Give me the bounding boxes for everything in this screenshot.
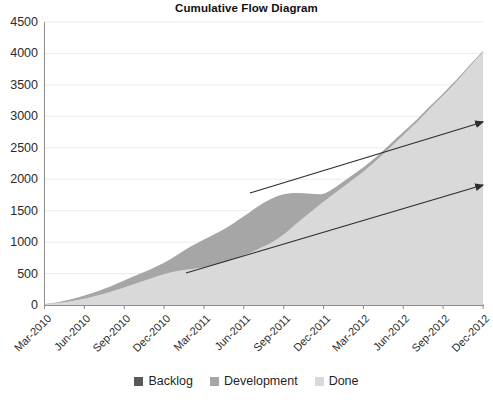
y-tick-label-1000: 1000 [0,236,38,248]
y-tick-label-4000: 4000 [0,47,38,59]
y-tick-label-3000: 3000 [0,110,38,122]
y-tick-label-4500: 4500 [0,16,38,28]
legend-label-done: Done [329,374,359,388]
legend-swatch-done [315,377,324,386]
cumulative-flow-chart: Cumulative Flow Diagram 4500400035003000… [0,0,493,400]
legend-item-done: Done [315,374,359,388]
legend-label-development: Development [224,374,298,388]
y-tick-label-500: 500 [0,268,38,280]
legend-item-backlog: Backlog [134,374,192,388]
y-tick-label-2500: 2500 [0,142,38,154]
legend-swatch-development [210,377,219,386]
y-tick-label-1500: 1500 [0,205,38,217]
chart-legend: Backlog Development Done [0,374,493,388]
area-series-group [45,51,484,305]
legend-label-backlog: Backlog [148,374,192,388]
y-tick-label-3500: 3500 [0,79,38,91]
y-tick-label-2000: 2000 [0,173,38,185]
legend-swatch-backlog [134,377,143,386]
legend-item-development: Development [210,374,298,388]
y-tick-label-0: 0 [0,299,38,311]
area-done [45,52,484,305]
